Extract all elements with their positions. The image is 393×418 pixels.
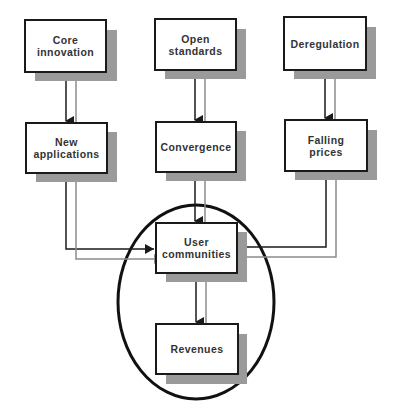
node-revenues: Revenues — [155, 323, 239, 375]
node-open-standards: Open standards — [154, 18, 237, 71]
node-falling-prices: Falling prices — [284, 119, 368, 172]
flow-diagram: Core innovation Open standards Deregulat… — [0, 0, 393, 418]
node-label: Deregulation — [291, 38, 360, 50]
node-label: Core innovation — [37, 34, 94, 58]
edge-newapps-to-users — [66, 173, 163, 259]
node-label: Falling prices — [308, 134, 345, 158]
node-label: Convergence — [161, 141, 232, 153]
node-core-innovation: Core innovation — [24, 19, 107, 73]
edge-prices-to-users — [238, 171, 336, 257]
node-label: User communities — [162, 236, 231, 260]
node-label: Open standards — [169, 33, 223, 57]
node-convergence: Convergence — [155, 121, 237, 173]
node-new-applications: New applications — [25, 122, 108, 174]
node-deregulation: Deregulation — [283, 16, 367, 71]
node-label: New applications — [33, 136, 99, 160]
node-user-communities: User communities — [155, 222, 238, 274]
node-label: Revenues — [171, 343, 224, 355]
